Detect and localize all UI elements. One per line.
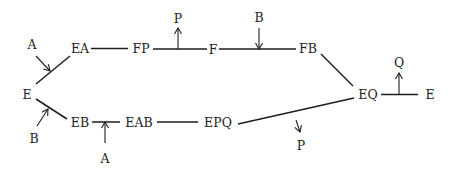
node-eb: EB xyxy=(71,115,89,130)
node-eab: EAB xyxy=(125,115,152,130)
label-p-bottom: P xyxy=(297,138,305,153)
label-b-bottom: B xyxy=(29,131,38,146)
node-eq: EQ xyxy=(358,87,377,102)
enzyme-mechanism-diagram: E EA FP F FB EQ E EB EAB EPQ A P B Q B A… xyxy=(0,0,452,170)
node-labels: E EA FP F FB EQ E EB EAB EPQ xyxy=(22,41,434,130)
edge-fb-eq xyxy=(321,54,353,86)
arrow-a-in-top-icon xyxy=(36,56,50,71)
label-a-top: A xyxy=(26,37,37,52)
label-b-top: B xyxy=(254,10,263,25)
label-q-right: Q xyxy=(394,55,404,70)
label-p-top: P xyxy=(174,11,182,26)
node-e-right: E xyxy=(425,87,434,102)
node-e-left: E xyxy=(22,87,31,102)
edge-e-eb xyxy=(36,99,67,119)
node-fb: FB xyxy=(299,41,317,56)
label-a-bottom: A xyxy=(99,151,110,166)
node-f: F xyxy=(209,42,218,57)
node-epq: EPQ xyxy=(204,115,232,130)
node-fp: FP xyxy=(132,41,149,56)
node-ea: EA xyxy=(71,41,90,56)
edge-e-ea xyxy=(36,56,70,84)
arrow-b-in-bottom-icon xyxy=(37,109,48,126)
ligand-labels: A P B Q B A P xyxy=(26,10,404,166)
arrow-p-out-bottom-icon xyxy=(296,120,300,132)
